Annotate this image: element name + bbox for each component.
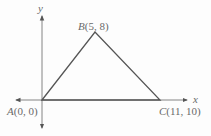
- point-a-coords: (0, 0): [14, 105, 38, 117]
- point-b-name: B: [78, 20, 85, 32]
- point-a-label: A(0, 0): [7, 106, 38, 117]
- point-a-name: A: [7, 105, 14, 117]
- point-c-label: C(11, 10): [159, 106, 201, 117]
- point-b-label: B(5, 8): [78, 21, 109, 32]
- y-axis-label: y: [38, 3, 43, 14]
- point-c-coords: (11, 10): [166, 105, 200, 117]
- point-b-coords: (5, 8): [85, 20, 109, 32]
- triangle-diagram: y x B(5, 8) A(0, 0) C(11, 10): [0, 0, 211, 136]
- triangle-abc: [42, 32, 160, 100]
- x-axis-label: x: [193, 94, 198, 105]
